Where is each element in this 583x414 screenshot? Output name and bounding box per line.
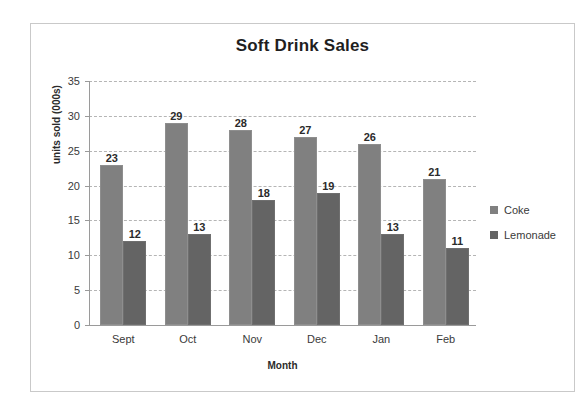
bar-value-label: 13 bbox=[193, 221, 205, 233]
y-tick-label: 10 bbox=[68, 249, 80, 261]
bar-value-label: 26 bbox=[364, 131, 376, 143]
x-axis-title: Month bbox=[89, 360, 476, 371]
x-tick-label-sept: Sept bbox=[112, 333, 135, 345]
y-tick-mark bbox=[85, 220, 90, 221]
y-tick-label: 30 bbox=[68, 110, 80, 122]
bar-group: 2913Oct bbox=[165, 81, 211, 325]
gridline bbox=[89, 255, 476, 256]
bar-group: 2111Feb bbox=[423, 81, 469, 325]
y-tick-label: 15 bbox=[68, 214, 80, 226]
x-tick-label-feb: Feb bbox=[436, 333, 455, 345]
bar-group: 2312Sept bbox=[100, 81, 146, 325]
x-tick-label-dec: Dec bbox=[307, 333, 327, 345]
bar-coke-oct[interactable]: 29 bbox=[165, 123, 188, 325]
bar-lemonade-feb[interactable]: 11 bbox=[446, 248, 469, 325]
bar-value-label: 18 bbox=[258, 187, 270, 199]
bar-value-label: 21 bbox=[428, 166, 440, 178]
bar-lemonade-sept[interactable]: 12 bbox=[123, 241, 146, 325]
y-tick-label: 20 bbox=[68, 180, 80, 192]
bar-lemonade-nov[interactable]: 18 bbox=[252, 200, 275, 325]
bar-group: 2818Nov bbox=[229, 81, 275, 325]
y-axis-line bbox=[89, 81, 90, 325]
y-tick-mark bbox=[85, 116, 90, 117]
legend-item-coke[interactable]: Coke bbox=[490, 204, 556, 216]
bar-coke-sept[interactable]: 23 bbox=[100, 165, 123, 325]
bar-value-label: 12 bbox=[129, 228, 141, 240]
x-tick-label-jan: Jan bbox=[372, 333, 390, 345]
y-tick-label: 0 bbox=[74, 319, 80, 331]
chart-title: Soft Drink Sales bbox=[31, 36, 574, 56]
bar-group: 2613Jan bbox=[358, 81, 404, 325]
legend-swatch-icon bbox=[490, 231, 498, 239]
y-tick-label: 35 bbox=[68, 75, 80, 87]
gridline bbox=[89, 186, 476, 187]
bar-coke-jan[interactable]: 26 bbox=[358, 144, 381, 325]
gridline bbox=[89, 151, 476, 152]
y-tick-mark bbox=[85, 81, 90, 82]
bar-value-label: 27 bbox=[299, 124, 311, 136]
x-axis-line bbox=[89, 325, 476, 326]
bar-coke-feb[interactable]: 21 bbox=[423, 179, 446, 325]
y-tick-label: 25 bbox=[68, 145, 80, 157]
bar-value-label: 13 bbox=[387, 221, 399, 233]
legend-item-lemonade[interactable]: Lemonade bbox=[490, 229, 556, 241]
y-tick-label: 5 bbox=[74, 284, 80, 296]
gridline bbox=[89, 220, 476, 221]
x-tick-label-oct: Oct bbox=[179, 333, 196, 345]
gridline bbox=[89, 81, 476, 82]
y-tick-mark bbox=[85, 186, 90, 187]
y-tick-mark bbox=[85, 290, 90, 291]
bar-value-label: 19 bbox=[322, 180, 334, 192]
plot-area: 05101520253035 2312Sept2913Oct2818Nov271… bbox=[89, 81, 476, 325]
gridline bbox=[89, 116, 476, 117]
bar-lemonade-oct[interactable]: 13 bbox=[188, 234, 211, 325]
legend-label: Lemonade bbox=[504, 229, 556, 241]
chart-legend: CokeLemonade bbox=[490, 204, 556, 254]
chart-frame: Soft Drink Sales units sold (000s) 05101… bbox=[30, 23, 575, 392]
bar-value-label: 28 bbox=[235, 117, 247, 129]
gridline bbox=[89, 290, 476, 291]
bar-lemonade-jan[interactable]: 13 bbox=[381, 234, 404, 325]
legend-label: Coke bbox=[504, 204, 530, 216]
bar-value-label: 23 bbox=[106, 152, 118, 164]
y-tick-mark bbox=[85, 151, 90, 152]
bar-lemonade-dec[interactable]: 19 bbox=[317, 193, 340, 325]
bar-group: 2719Dec bbox=[294, 81, 340, 325]
y-axis-title: units sold (000s) bbox=[51, 150, 62, 164]
bar-coke-dec[interactable]: 27 bbox=[294, 137, 317, 325]
x-tick-label-nov: Nov bbox=[242, 333, 262, 345]
y-tick-mark bbox=[85, 325, 90, 326]
bar-value-label: 29 bbox=[170, 110, 182, 122]
bar-coke-nov[interactable]: 28 bbox=[229, 130, 252, 325]
y-tick-mark bbox=[85, 255, 90, 256]
bar-value-label: 11 bbox=[451, 235, 463, 247]
legend-swatch-icon bbox=[490, 206, 498, 214]
